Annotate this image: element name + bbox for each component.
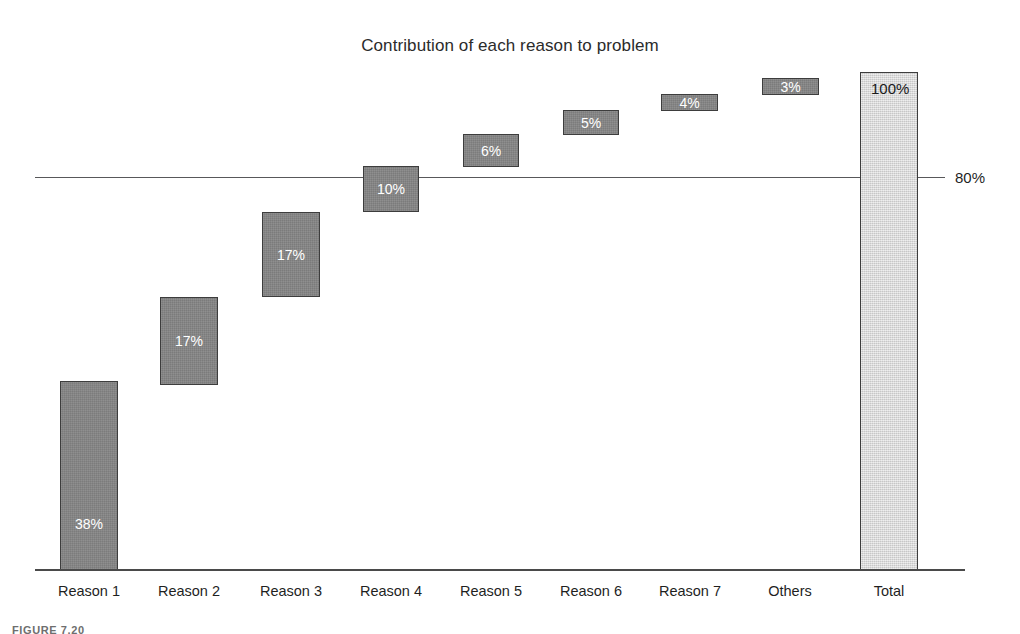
bar-value-label: 17%	[277, 248, 305, 262]
bar-reason-7[interactable]: 4%	[661, 94, 718, 111]
threshold-line-label: 80%	[955, 169, 985, 186]
bar-value-label: 5%	[581, 116, 601, 130]
bar-others[interactable]: 3%	[762, 78, 819, 95]
bar-reason-3[interactable]: 17%	[262, 212, 320, 297]
bar-value-label: 10%	[377, 182, 405, 196]
bar-reason-1[interactable]: 38%	[60, 381, 118, 570]
bar-value-label: 38%	[75, 517, 103, 531]
x-axis-line	[35, 569, 965, 571]
bar-reason-5[interactable]: 6%	[463, 134, 519, 167]
bar-reason-4[interactable]: 10%	[363, 166, 419, 212]
x-axis-label-total: Total	[829, 583, 949, 599]
bar-value-label: 3%	[780, 80, 800, 94]
plot-area: 80% 38% 17% 17% 10% 6% 5% 4% 3% 100%	[0, 0, 1020, 634]
bar-total[interactable]: 100%	[860, 72, 918, 570]
figure-caption: FIGURE 7.20	[12, 624, 85, 634]
bar-value-label: 6%	[481, 144, 501, 158]
bar-value-label: 4%	[679, 96, 699, 110]
bar-value-label: 17%	[175, 334, 203, 348]
bar-reason-2[interactable]: 17%	[160, 297, 218, 385]
figure-waterfall-chart: Contribution of each reason to problem 8…	[0, 0, 1020, 634]
bar-value-label: 100%	[871, 81, 909, 96]
threshold-line-80-percent	[35, 177, 945, 178]
bar-reason-6[interactable]: 5%	[563, 110, 619, 135]
